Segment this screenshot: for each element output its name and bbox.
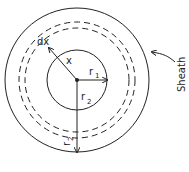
x-label: x (66, 55, 72, 66)
cable-cross-section-diagram: dx x r 1 r 2 r 2 Sheath (0, 0, 189, 172)
sheath-label: Sheath (176, 57, 187, 92)
r1-subscript: 1 (95, 72, 99, 80)
sheath-pointer-arrow (152, 52, 175, 62)
dx-label: dx (37, 36, 49, 47)
r2-subscript: 2 (87, 98, 91, 106)
x-arrow (49, 48, 77, 80)
r2-outer-subscript: 2 (67, 137, 75, 141)
r2-label: r (81, 91, 86, 102)
r1-label: r (89, 66, 94, 77)
